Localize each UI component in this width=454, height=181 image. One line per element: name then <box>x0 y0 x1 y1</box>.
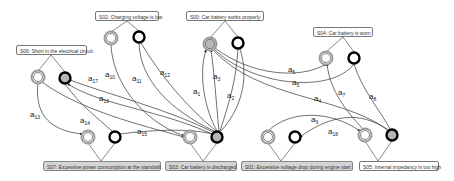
edge-label-a1: a1 <box>193 87 200 97</box>
edge-s06-s03 <box>42 82 184 137</box>
edge-a13 <box>38 83 82 134</box>
edge-label-a13: a13 <box>30 110 40 120</box>
state-label-s05: S05: Internal impedancy is too high <box>359 161 439 171</box>
state-label-s02: S02: Charging voltage is low <box>95 11 159 21</box>
edge-label-a17: a17 <box>88 74 98 84</box>
edge-label-a18: a18 <box>328 127 338 137</box>
node-s06-out[interactable] <box>60 73 71 84</box>
edge-label-a4: a4 <box>314 94 321 104</box>
node-s03-in[interactable] <box>184 131 197 144</box>
node-s00-in[interactable] <box>204 38 217 51</box>
edge-label-a2: a2 <box>227 91 234 101</box>
node-s02-in[interactable] <box>105 32 118 45</box>
state-label-s01: S01: Excessive voltage drop during engin… <box>241 161 353 171</box>
edge-label-a7: a7 <box>338 88 345 98</box>
node-s01-out[interactable] <box>290 132 301 143</box>
edge-a11 <box>139 43 214 131</box>
edge-a4 <box>213 50 388 130</box>
edge-a17 <box>70 80 213 132</box>
edge-s00-s03 <box>221 49 244 131</box>
state-label-s06: S06: Short in the electrical circuit <box>16 45 87 55</box>
edge-a1 <box>203 50 217 131</box>
edge-label-a5: a5 <box>292 78 299 88</box>
edge-label-a3: a3 <box>213 72 220 82</box>
edge-label-a15: a15 <box>137 127 147 137</box>
edge-label-a8: a8 <box>369 92 376 102</box>
state-label-s07: S07: Excessive power consumption at the … <box>43 161 161 171</box>
edge-label-a12: a12 <box>160 68 170 78</box>
edge-label-a9: a9 <box>311 115 318 125</box>
node-s00-out[interactable] <box>233 38 244 49</box>
edge-a3 <box>211 50 219 131</box>
node-s05-in[interactable] <box>359 129 372 142</box>
state-label-s00: S00: Car battery works properly <box>186 11 264 21</box>
node-s02-out[interactable] <box>134 32 145 43</box>
node-s05-out[interactable] <box>387 130 398 141</box>
node-s07-in[interactable] <box>82 131 95 144</box>
node-s03-out[interactable] <box>212 132 223 143</box>
edge-label-a14: a14 <box>80 116 90 126</box>
edge-a10 <box>111 44 184 136</box>
state-transition-diagram: a1 a2 a3 a4 a5 a6 a7 a8 a9 a10 a11 a12 a… <box>0 0 454 181</box>
node-s04-out[interactable] <box>349 53 360 64</box>
edge-label-a11: a11 <box>132 74 142 84</box>
edge-label-a10: a10 <box>105 70 115 80</box>
edge-label-a16: a16 <box>99 94 109 104</box>
state-label-s03: S03: Car battery is discharged <box>165 161 237 171</box>
node-s01-in[interactable] <box>262 131 275 144</box>
node-s06-in[interactable] <box>32 71 45 84</box>
state-label-s04: S04: Car battery is worn <box>313 27 373 37</box>
node-s07-out[interactable] <box>110 132 121 143</box>
edge-label-a6: a6 <box>288 65 295 75</box>
edge-a12 <box>141 43 216 131</box>
edge-a6 <box>215 48 326 73</box>
node-s04-in[interactable] <box>320 52 333 65</box>
edge-a5 <box>214 49 354 82</box>
